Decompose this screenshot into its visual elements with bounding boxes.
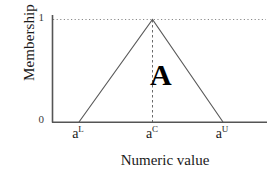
y-tick-label-1: 1 bbox=[30, 11, 44, 23]
x-tick-upper-sup: U bbox=[222, 124, 229, 134]
region-label-a: A bbox=[150, 60, 172, 90]
x-tick-center-sup: C bbox=[152, 124, 158, 134]
x-axis-title: Numeric value bbox=[60, 152, 270, 169]
figure-canvas: Membership 1 0 aL aC aU A Numeric value bbox=[0, 0, 271, 178]
x-tick-label-upper: aU bbox=[202, 126, 242, 142]
x-tick-label-center: aC bbox=[132, 126, 172, 142]
y-tick-label-0: 0 bbox=[30, 113, 44, 125]
x-tick-lower-sup: L bbox=[78, 124, 84, 134]
x-tick-label-lower: aL bbox=[58, 126, 98, 142]
